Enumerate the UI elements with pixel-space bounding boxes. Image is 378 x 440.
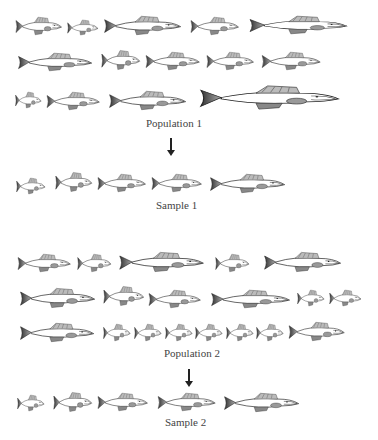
fish-icon (134, 322, 162, 347)
fish-icon (190, 15, 240, 41)
fish-icon (329, 288, 362, 312)
fish-icon (103, 284, 145, 312)
fish-icon (215, 252, 250, 278)
fish-icon (157, 391, 217, 417)
fish-icon (145, 50, 201, 76)
fish-icon (67, 18, 99, 41)
arrow-down-icon (188, 369, 190, 383)
fish-icon (97, 391, 149, 417)
fish-icon (198, 83, 343, 116)
sample-2-label: Sample 2 (165, 416, 206, 428)
fish-icon (223, 391, 301, 418)
fish-icon (151, 172, 203, 198)
fish-icon (17, 51, 94, 77)
fish-icon (103, 322, 131, 347)
fish-icon (165, 322, 193, 347)
sample-1-label: Sample 1 (156, 199, 197, 211)
fish-icon (288, 320, 346, 347)
fish-icon (248, 14, 350, 40)
population-1-label: Population 1 (146, 117, 202, 129)
fish-icon (103, 14, 183, 41)
fish-icon (15, 15, 63, 41)
fish-icon (16, 176, 46, 200)
fish-icon (108, 89, 188, 116)
fish-icon (53, 390, 93, 418)
fish-icon (17, 252, 72, 278)
fish-icon (46, 90, 101, 116)
population-2-label: Population 2 (164, 347, 220, 359)
fish-icon (97, 172, 147, 198)
fish-icon (118, 250, 206, 278)
fish-icon (226, 322, 254, 347)
fish-icon (17, 393, 45, 417)
fish-icon (261, 50, 322, 76)
fish-icon (148, 288, 202, 314)
fish-icon (55, 170, 93, 198)
fish-icon (19, 321, 96, 348)
fish-icon (195, 322, 223, 347)
fish-icon (15, 90, 42, 114)
fish-icon (263, 250, 343, 278)
fish-icon (256, 322, 284, 347)
fish-icon (19, 286, 97, 314)
fish-icon (77, 252, 112, 278)
fish-icon (210, 288, 292, 314)
arrow-down-icon (170, 138, 172, 152)
fish-icon (209, 172, 287, 199)
fish-icon (101, 48, 141, 76)
fish-icon (297, 288, 325, 312)
fish-icon (206, 50, 255, 76)
